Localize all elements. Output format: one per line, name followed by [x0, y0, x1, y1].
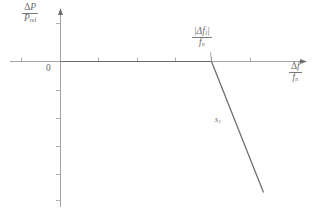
nominal-frequency-subscript: n: [202, 42, 205, 48]
frequency-symbol: f: [297, 61, 300, 71]
y-axis-label-fraction: ΔP Pref: [22, 3, 38, 24]
origin-label: 0: [46, 64, 51, 74]
breakpoint-leader-line: [211, 52, 212, 61]
breakpoint-label-fraction: |Δf1| fn: [192, 27, 212, 49]
x-axis-label-numerator: Δf: [289, 62, 302, 73]
x-axis-label-fraction: Δf fn: [289, 62, 302, 83]
breakpoint-label-denominator: fn: [192, 38, 212, 48]
droop-characteristic-curve: [61, 62, 264, 193]
power-symbol: P: [30, 2, 36, 12]
plot-area: [0, 0, 318, 215]
y-axis: [56, 8, 63, 207]
y-axis-ticks: [56, 24, 61, 201]
y-axis-label-denominator: Pref: [22, 14, 38, 24]
curve-slope-segment: [212, 62, 264, 193]
figure-canvas: ΔP Pref Δf fn |Δf1| fn 0 s2: [0, 0, 318, 215]
y-axis-arrowhead: [58, 8, 63, 15]
slope-subscript: 2: [218, 119, 220, 124]
abs-bar-close: |: [208, 26, 210, 36]
y-axis-label: ΔP Pref: [22, 3, 38, 24]
power-ref-subscript: ref: [30, 17, 37, 23]
deadband-frequency-symbol: |Δf: [194, 26, 205, 36]
x-axis-label: Δf fn: [289, 62, 302, 83]
x-axis: [10, 58, 307, 65]
x-axis-label-denominator: fn: [289, 73, 302, 83]
slope-label: s2: [215, 116, 221, 125]
breakpoint-label: |Δf1| fn: [192, 27, 212, 49]
x-axis-ticks: [22, 58, 251, 62]
nominal-frequency-subscript: n: [295, 76, 298, 82]
